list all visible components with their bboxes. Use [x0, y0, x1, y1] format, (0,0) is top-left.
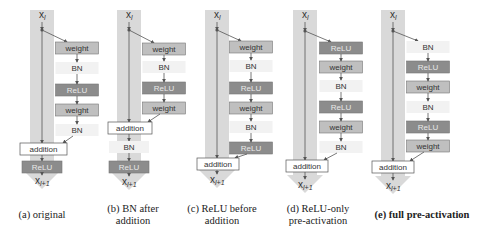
residual-unit-b: xlweightBNReLUweightadditionBNReLUxl+1	[108, 9, 186, 190]
merge-arrow	[324, 153, 337, 160]
bn-label: BN	[71, 126, 82, 135]
addition-label: addition	[204, 160, 232, 169]
caption-line: (b) BN after	[88, 203, 178, 215]
caption-e: (e) full pre-activation	[362, 209, 479, 221]
caption-line: addition	[177, 215, 267, 227]
weight-label: weight	[415, 83, 440, 92]
bn-label: BN	[335, 82, 346, 91]
weight-label: weight	[151, 104, 176, 113]
caption-line: (a) original	[0, 209, 87, 221]
addition-label: addition	[116, 124, 144, 133]
bn-label: BN	[71, 64, 82, 73]
caption-line: (e) full pre-activation	[362, 209, 479, 221]
weight-label: weight	[151, 45, 176, 54]
weight-label: weight	[328, 63, 353, 72]
addition-label: addition	[379, 163, 407, 172]
merge-arrow	[235, 154, 247, 158]
caption-b: (b) BN afteraddition	[88, 203, 178, 227]
relu-label: ReLU	[154, 84, 175, 93]
relu-label: ReLU	[331, 44, 352, 53]
bn-label: BN	[422, 43, 433, 52]
residual-unit-e: xlBNReLUweightBNReLUweightadditionxl+1	[372, 9, 450, 194]
bn-label: BN	[245, 123, 256, 132]
merge-arrow	[63, 136, 73, 143]
weight-label: weight	[238, 104, 263, 113]
bn-label: BN	[245, 62, 256, 71]
post-relu-label: ReLU	[119, 163, 140, 172]
bn-label: BN	[335, 143, 346, 152]
caption-d: (d) ReLU-onlypre-activation	[273, 203, 363, 227]
weight-label: weight	[64, 106, 89, 115]
relu-label: ReLU	[241, 84, 262, 93]
weight-label: weight	[238, 43, 263, 52]
merge-arrow	[148, 114, 160, 122]
caption-line: pre-activation	[273, 215, 363, 227]
addition-label: addition	[29, 145, 57, 154]
caption-line: (c) ReLU before	[177, 203, 267, 215]
residual-unit-d: xlReLUweightBNReLUweightBNadditionxl+1	[286, 9, 363, 193]
post-bn-label: BN	[123, 143, 134, 152]
relu-label: ReLU	[418, 63, 439, 72]
addition-label: addition	[293, 162, 321, 171]
caption-c: (c) ReLU beforeaddition	[177, 203, 267, 227]
merge-arrow	[410, 152, 424, 161]
caption-line: addition	[88, 215, 178, 227]
weight-label: weight	[415, 142, 440, 151]
relu-label: ReLU	[418, 123, 439, 132]
diagram-canvas: xlweightBNReLUweightBNadditionReLUxl+1xl…	[0, 0, 479, 237]
bn-label: BN	[422, 103, 433, 112]
residual-unit-c: xlweightBNReLUweightBNReLUadditionxl+1	[197, 9, 273, 188]
residual-unit-a: xlweightBNReLUweightBNadditionReLUxl+1	[20, 9, 99, 189]
weight-label: weight	[64, 44, 89, 53]
relu-label: ReLU	[331, 103, 352, 112]
relu-label: ReLU	[241, 144, 262, 153]
weight-label: weight	[328, 123, 353, 132]
bn-label: BN	[158, 63, 169, 72]
resnet-residual-unit-variants-figure: xlweightBNReLUweightBNadditionReLUxl+1xl…	[0, 0, 479, 237]
caption-a: (a) original	[0, 209, 87, 221]
post-relu-label: ReLU	[32, 163, 53, 172]
relu-label: ReLU	[67, 86, 88, 95]
caption-line: (d) ReLU-only	[273, 203, 363, 215]
